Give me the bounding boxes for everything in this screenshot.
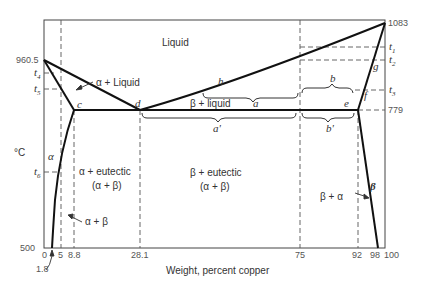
point-d: d [135, 97, 141, 109]
x-tick-92: 92 [352, 250, 362, 260]
x-tick-98: 98 [370, 250, 380, 260]
brace-label-b-prime: b' [326, 122, 335, 134]
svg-text:t3: t3 [389, 83, 396, 98]
x-tick-8.8: 8.8 [68, 250, 81, 260]
label-alpha-eutectic: α + eutectic [79, 166, 131, 177]
x-tick-1.8: 1.8 [36, 264, 49, 274]
label-alpha-beta: α + β [85, 216, 108, 227]
plot-frame [44, 20, 385, 248]
y-tick-500: 500 [20, 243, 35, 253]
x-tick-5: 5 [58, 250, 63, 260]
point-c: c [77, 98, 82, 110]
label-alpha-liquid: α + Liquid [96, 77, 140, 88]
y-axis-label: °C [14, 147, 25, 158]
x-tick-0: 0 [42, 250, 47, 260]
lever-braces [142, 84, 354, 122]
svg-text:t6: t6 [34, 165, 41, 180]
y-tick-779: 779 [388, 105, 403, 115]
x-axis-label: Weight, percent copper [166, 265, 270, 276]
svg-text:t5: t5 [34, 82, 41, 97]
label-beta-liquid: β + liquid [190, 98, 231, 109]
label-beta: β [369, 180, 376, 192]
point-g: g [373, 60, 379, 72]
label-liquid: Liquid [162, 37, 189, 48]
svg-text:t2: t2 [389, 53, 396, 68]
brace-label-a-prime: a' [213, 122, 222, 134]
label-beta-alpha: β + α [320, 191, 343, 202]
point-e: e [344, 97, 349, 109]
svg-text:t4: t4 [34, 66, 41, 81]
brace-label-b: b [330, 72, 336, 84]
label-alpha-eutectic-sub: (α + β) [92, 180, 122, 191]
label-beta-eutectic: β + eutectic [190, 167, 242, 178]
brace-a-prime [142, 113, 296, 122]
brace-b-prime [302, 113, 354, 122]
phase-diagram: Liquid α + Liquid β + liquid α β α + eut… [0, 0, 423, 288]
y-tick-960: 960.5 [16, 55, 39, 65]
brace-label-a: a [253, 97, 259, 109]
y-tick-1083: 1083 [388, 18, 408, 28]
point-f: f [364, 89, 369, 101]
label-beta-eutectic-sub: (α + β) [200, 181, 230, 192]
label-alpha: α [48, 150, 54, 162]
x-tick-28.1: 28.1 [131, 250, 149, 260]
phase-boundaries [44, 23, 385, 248]
composition-guides [61, 20, 358, 248]
x-tick-75: 75 [295, 250, 305, 260]
point-h: h [218, 75, 224, 87]
brace-b [302, 84, 353, 93]
x-tick-100: 100 [384, 250, 399, 260]
